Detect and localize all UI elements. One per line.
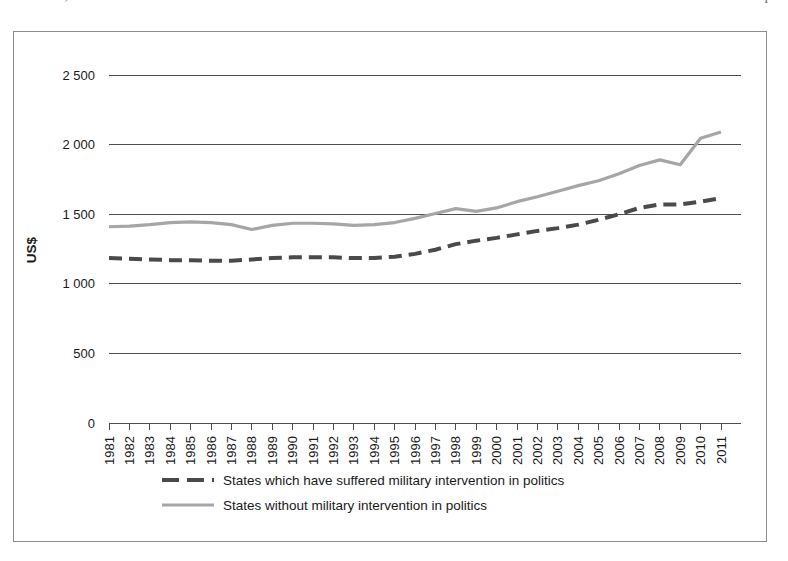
x-axis-tick-label: 2010	[693, 436, 708, 465]
x-axis-tick-label: 1982	[122, 436, 137, 465]
x-axis-tick-label: 1996	[408, 436, 423, 465]
x-axis-tick-marks	[109, 423, 721, 430]
x-axis-tick-label: 2000	[489, 436, 504, 465]
legend-label-2: States without military intervention in …	[223, 498, 487, 513]
y-axis-tick-label: 2 000	[62, 137, 95, 152]
x-axis-tick-label: 1998	[448, 436, 463, 465]
x-axis-tick-label: 2007	[632, 436, 647, 465]
x-axis-tick-label: 1984	[163, 436, 178, 465]
x-axis-tick-label: 2008	[652, 436, 667, 465]
x-axis-tick-label: 1986	[204, 436, 219, 465]
x-axis-tick-label: 1989	[265, 436, 280, 465]
series-line-1	[109, 198, 721, 261]
data-series	[109, 132, 721, 261]
x-axis-tick-label: 2002	[530, 436, 545, 465]
x-axis-tick-label: 1983	[142, 436, 157, 465]
document-cut-off-text: Likewise, p	[0, 0, 788, 16]
x-axis-tick-label: 2001	[510, 436, 525, 465]
x-axis-tick-labels: 1981198219831984198519861987198819891990…	[102, 436, 729, 465]
document-cut-off-text-left: Likewise,	[8, 0, 69, 4]
x-axis-tick-label: 1997	[428, 436, 443, 465]
x-axis-tick-label: 1985	[183, 436, 198, 465]
y-axis-tick-label: 0	[88, 416, 95, 431]
y-axis-tick-labels: 05001 0001 5002 0002 500	[62, 68, 95, 431]
y-axis-tick-label: 1 500	[62, 207, 95, 222]
legend-label-1: States which have suffered military inte…	[223, 473, 564, 488]
line-chart: 05001 0001 5002 0002 500 198119821983198…	[14, 32, 766, 541]
gridlines	[109, 75, 741, 423]
x-axis-tick-label: 2009	[673, 436, 688, 465]
x-axis-tick-label: 2006	[612, 436, 627, 465]
x-axis-tick-label: 1990	[285, 436, 300, 465]
x-axis-tick-label: 1987	[224, 436, 239, 465]
y-axis-tick-label: 2 500	[62, 68, 95, 83]
x-axis-tick-label: 2003	[550, 436, 565, 465]
x-axis-tick-label: 1993	[346, 436, 361, 465]
chart-legend: States which have suffered military inte…	[162, 473, 564, 513]
document-cut-off-text-right: p	[765, 0, 773, 4]
x-axis-tick-label: 2004	[571, 436, 586, 465]
x-axis-tick-label: 1988	[244, 436, 259, 465]
y-axis-tick-label: 1 000	[62, 276, 95, 291]
x-axis-tick-label: 1981	[102, 436, 117, 465]
x-axis-tick-label: 1994	[367, 436, 382, 465]
chart-container: 05001 0001 5002 0002 500 198119821983198…	[13, 31, 767, 542]
x-axis-tick-label: 2005	[591, 436, 606, 465]
x-axis-tick-label: 2011	[714, 436, 729, 464]
x-axis-tick-label: 1992	[326, 436, 341, 465]
series-line-2	[109, 132, 721, 229]
y-axis-tick-label: 500	[73, 346, 95, 361]
x-axis-tick-label: 1999	[469, 436, 484, 465]
x-axis-tick-label: 1995	[387, 436, 402, 465]
y-axis-title: US$	[24, 236, 39, 263]
x-axis-tick-label: 1991	[306, 436, 321, 465]
